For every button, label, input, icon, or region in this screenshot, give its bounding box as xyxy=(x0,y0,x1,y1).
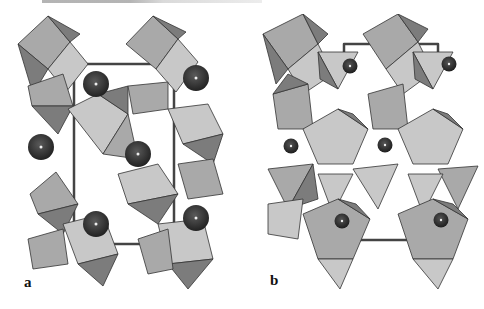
structure-panel-b xyxy=(258,14,484,304)
structure-diagram-a xyxy=(8,14,238,304)
structure-diagram-b xyxy=(258,14,484,304)
panel-label-a: a xyxy=(24,274,32,291)
cropped-caption-text xyxy=(42,0,262,3)
structure-panel-a xyxy=(8,14,238,304)
panel-label-b: b xyxy=(270,272,278,289)
